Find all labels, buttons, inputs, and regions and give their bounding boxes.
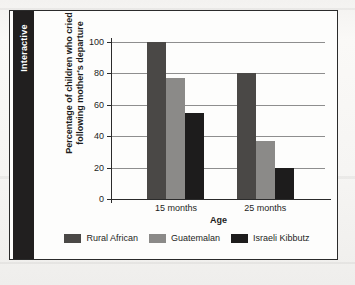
x-axis-title: Age <box>112 215 325 225</box>
bar-group <box>147 42 204 199</box>
y-axis-tick-label: 20 <box>94 163 104 173</box>
legend-swatch <box>231 234 248 243</box>
legend-label: Rural African <box>86 233 138 243</box>
legend-swatch <box>64 234 81 243</box>
plot-area: 02040608010015 months25 months <box>112 42 325 199</box>
bar[interactable] <box>237 73 256 199</box>
bar[interactable] <box>256 141 275 199</box>
y-axis-tick <box>107 199 111 200</box>
bar[interactable] <box>166 78 185 199</box>
legend-item[interactable]: Israeli Kibbutz <box>231 233 310 243</box>
y-axis-tick-label: 60 <box>94 100 104 110</box>
x-axis-tick-label: 25 months <box>227 203 304 213</box>
y-axis-tick-label: 0 <box>99 194 104 204</box>
y-axis-tick <box>107 136 111 137</box>
bar-chart: Percentage of children who cried followi… <box>40 14 334 256</box>
legend-item[interactable]: Rural African <box>64 233 138 243</box>
y-axis-tick-label: 100 <box>89 37 104 47</box>
y-axis-tick <box>107 105 111 106</box>
y-axis-title-line-1: Percentage of children who cried <box>64 4 75 162</box>
chart-legend: Rural AfricanGuatemalanIsraeli Kibbutz <box>40 233 334 243</box>
y-axis-title: Percentage of children who cried followi… <box>64 4 86 162</box>
legend-label: Israeli Kibbutz <box>253 233 310 243</box>
y-axis-tick <box>107 73 111 74</box>
interactive-tab[interactable]: Interactive <box>13 11 34 259</box>
legend-item[interactable]: Guatemalan <box>149 233 220 243</box>
gridline <box>112 199 325 200</box>
y-axis-tick-label: 80 <box>94 68 104 78</box>
bar-group <box>237 42 294 199</box>
x-axis-tick-label: 15 months <box>137 203 214 213</box>
legend-label: Guatemalan <box>171 233 220 243</box>
y-axis-title-line-2: following mother's departure <box>75 4 86 162</box>
bar[interactable] <box>275 168 294 199</box>
legend-swatch <box>149 234 166 243</box>
y-axis-tick <box>107 168 111 169</box>
bar[interactable] <box>185 113 204 199</box>
scan-artifact-band <box>0 262 355 264</box>
interactive-tab-label: Interactive <box>19 11 29 93</box>
bar[interactable] <box>147 42 166 199</box>
y-axis-tick <box>107 42 111 43</box>
y-axis-tick-label: 40 <box>94 131 104 141</box>
